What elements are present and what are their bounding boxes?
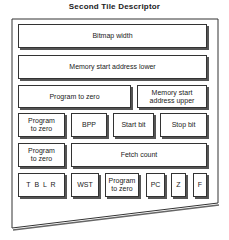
field-tblr: T B L R <box>18 173 65 197</box>
field-label: Program to zero <box>106 177 138 193</box>
field-stop-bit: Stop bit <box>160 113 207 137</box>
field-pc: PC <box>146 173 165 197</box>
field-memory-start-address-lower: Memory start address lower <box>18 55 207 79</box>
field-label: Fetch count <box>121 151 158 159</box>
field-label: T B L R <box>26 181 56 189</box>
field-program-to-zero: Program to zero <box>18 85 131 108</box>
field-label: Memory start address lower <box>69 63 155 71</box>
field-label: WST <box>77 181 93 189</box>
field-bpp: BPP <box>71 113 107 137</box>
field-memory-start-address-upper: Memory start address upper <box>137 85 207 108</box>
field-fetch-count: Fetch count <box>71 143 207 167</box>
field-label: F <box>198 181 202 189</box>
field-label: Bitmap width <box>92 32 132 40</box>
field-label: Program to zero <box>49 93 99 101</box>
field-bitmap-width: Bitmap width <box>18 24 207 48</box>
field-label: BPP <box>82 121 96 129</box>
field-start-bit: Start bit <box>113 113 154 137</box>
field-label: Z <box>176 181 180 189</box>
field-f: F <box>193 173 207 197</box>
field-label: Program to zero <box>25 147 58 163</box>
field-label: Program to zero <box>25 117 58 133</box>
field-label: Memory start address upper <box>142 89 202 105</box>
field-z: Z <box>171 173 186 197</box>
field-label: PC <box>151 181 161 189</box>
field-program-to-zero: Program to zero <box>18 113 65 137</box>
field-wst: WST <box>71 173 99 197</box>
field-label: Start bit <box>121 121 145 129</box>
field-program-to-zero: Program to zero <box>18 143 65 167</box>
field-program-to-zero: Program to zero <box>105 173 139 197</box>
field-label: Stop bit <box>172 121 196 129</box>
